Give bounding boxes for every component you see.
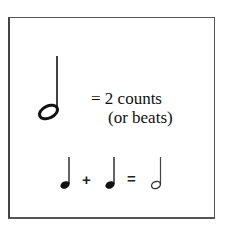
quarter-note-icon <box>104 156 118 192</box>
half-note-small-icon <box>150 156 164 192</box>
beats-text: (or beats) <box>108 108 173 127</box>
counts-text: = 2 counts <box>91 89 162 108</box>
quarter-note-icon <box>59 156 73 192</box>
half-note-icon <box>36 54 62 124</box>
equals-sign: = <box>127 170 136 187</box>
plus-sign: + <box>82 171 91 188</box>
